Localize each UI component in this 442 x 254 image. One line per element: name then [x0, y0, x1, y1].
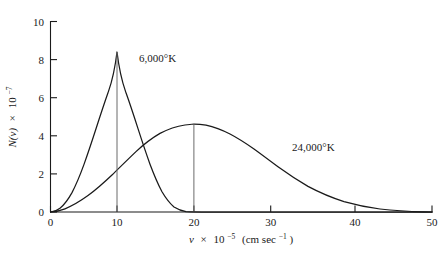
x-axis-exponent: −5 [227, 232, 235, 241]
y-axis-mantissa: 10 [6, 97, 18, 109]
curve-6000k [51, 52, 433, 212]
y-tick-labels: 0 2 4 6 8 10 [33, 16, 45, 219]
x-axis-units-exponent: −1 [279, 232, 287, 241]
svg-text:N(v) × 10: N(v) × 10 −7 [5, 86, 19, 148]
x-tick-label-20: 20 [188, 216, 200, 228]
x-tick-label-50: 50 [427, 216, 439, 228]
y-tick-label-2: 2 [39, 168, 45, 180]
y-tick-marks [51, 22, 58, 213]
speed-distribution-figure: 0 2 4 6 8 10 0 10 20 30 40 50 6,000°K 24… [0, 0, 442, 254]
x-tick-labels: 0 10 20 30 40 50 [48, 216, 438, 228]
x-axis-title: v × 10 −5 (cm sec −1 ) [189, 229, 293, 246]
peak-drop-lines [117, 53, 194, 212]
y-tick-label-4: 4 [39, 130, 45, 142]
y-axis-exponent: −7 [5, 86, 14, 94]
y-axis-function: N(v) [6, 128, 19, 149]
curve-24000k [51, 124, 433, 212]
x-tick-label-40: 40 [350, 216, 362, 228]
y-axis-title: N(v) × 10 −7 [5, 86, 19, 148]
svg-text:v × 10: v × 10 −5 (cm sec −1 ) [189, 229, 293, 246]
x-axis-times: × [201, 233, 207, 245]
curve-label-24000k: 24,000°K [292, 141, 335, 153]
x-tick-label-0: 0 [48, 216, 54, 228]
y-tick-label-6: 6 [39, 92, 45, 104]
chart-canvas: 0 2 4 6 8 10 0 10 20 30 40 50 6,000°K 24… [0, 0, 442, 254]
curve-label-6000k: 6,000°K [139, 52, 176, 64]
x-axis-units-close: ) [289, 233, 293, 246]
x-axis-mantissa: 10 [214, 233, 226, 245]
x-axis-units: (cm sec [242, 233, 276, 246]
x-axis-symbol: v [189, 233, 194, 245]
axes-group [50, 21, 433, 213]
x-tick-label-10: 10 [112, 216, 124, 228]
y-tick-label-10: 10 [33, 16, 45, 28]
y-axis-times: × [6, 115, 18, 121]
y-tick-label-8: 8 [39, 54, 45, 66]
x-tick-label-30: 30 [265, 216, 277, 228]
y-tick-label-0: 0 [39, 206, 45, 218]
